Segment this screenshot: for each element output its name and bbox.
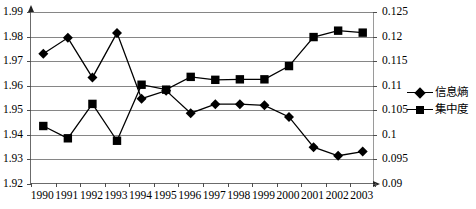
left-axis-tick-label: 1.96 <box>0 80 23 92</box>
data-point-square <box>187 73 195 81</box>
right-axis-tick-label: 0.1 <box>382 129 396 141</box>
data-point-square <box>137 81 145 89</box>
data-point-square <box>309 33 317 41</box>
left-axis-tick-label: 1.92 <box>0 178 23 190</box>
data-point-square <box>260 75 268 83</box>
x-axis-tick-label: 2003 <box>342 189 382 201</box>
chart-root: 1.921.931.941.951.961.971.981.99 0.090.0… <box>0 0 476 209</box>
data-point-square <box>211 76 219 84</box>
left-axis-tick-label: 1.97 <box>0 55 23 67</box>
right-axis-tick-label: 0.095 <box>382 153 408 165</box>
data-point-diamond <box>63 33 73 43</box>
data-point-diamond <box>210 99 220 109</box>
right-axis-tick-label: 0.125 <box>382 6 408 18</box>
data-point-diamond <box>235 99 245 109</box>
data-point-square <box>285 62 293 70</box>
data-point-square <box>359 28 367 36</box>
left-axis-tick-label: 1.93 <box>0 153 23 165</box>
right-axis-tick-label: 0.12 <box>382 31 402 43</box>
data-point-diamond <box>137 94 147 104</box>
series-line <box>43 31 362 141</box>
diamond-marker-icon <box>407 86 433 100</box>
x-axis-tick <box>375 183 376 187</box>
plot-area <box>30 12 374 184</box>
square-marker-icon <box>407 103 433 117</box>
right-axis-tick-label: 0.11 <box>382 80 402 92</box>
data-point-diamond <box>112 28 122 38</box>
legend-item-concentration[interactable]: 集中度 <box>407 101 476 118</box>
data-point-diamond <box>87 73 97 83</box>
legend-label-entropy: 信息熵 <box>433 86 468 99</box>
data-point-square <box>88 100 96 108</box>
data-point-square <box>162 85 170 93</box>
legend-item-entropy[interactable]: 信息熵 <box>407 84 476 101</box>
data-point-diamond <box>38 49 48 59</box>
left-axis-tick-label: 1.98 <box>0 31 23 43</box>
data-point-square <box>236 75 244 83</box>
data-point-square <box>334 26 342 34</box>
data-point-square <box>113 137 121 145</box>
left-axis-tick-label: 1.95 <box>0 104 23 116</box>
series-line <box>43 33 362 156</box>
series-plot <box>31 12 375 184</box>
chart-legend: 信息熵 集中度 <box>407 84 476 118</box>
data-point-diamond <box>333 151 343 161</box>
left-axis-tick-label: 1.99 <box>0 6 23 18</box>
data-point-square <box>39 122 47 130</box>
y-axis-arrow-icon <box>28 5 34 12</box>
data-point-square <box>64 134 72 142</box>
right-axis-tick-label: 0.105 <box>382 104 408 116</box>
data-point-diamond <box>259 100 269 110</box>
data-point-diamond <box>358 147 368 157</box>
right-axis-tick-label: 0.115 <box>382 55 407 67</box>
left-axis-tick-label: 1.94 <box>0 129 23 141</box>
right-axis-tick-label: 0.09 <box>382 178 402 190</box>
legend-label-concentration: 集中度 <box>433 103 468 116</box>
